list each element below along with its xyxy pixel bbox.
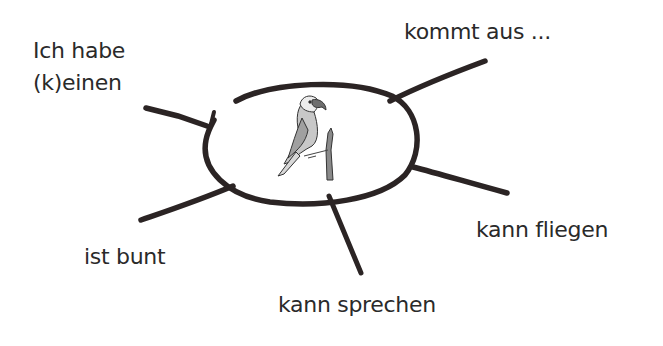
parrot-icon xyxy=(278,96,333,180)
branch-label-bottom: kann sprechen xyxy=(278,290,436,320)
spoke-right xyxy=(413,167,507,193)
branch-label-right: kann fliegen xyxy=(476,215,608,245)
branch-label-top-right: kommt aus ... xyxy=(404,17,551,47)
branch-label-bottom-left: ist bunt xyxy=(84,242,165,272)
branch-label-top-left-line2: (k)einen xyxy=(33,68,122,98)
spoke-bottom xyxy=(329,196,361,273)
spoke-top-left xyxy=(146,108,207,126)
spoke-top-right xyxy=(390,61,485,101)
branch-label-top-left-line1: Ich habe xyxy=(33,36,125,66)
spoke-bottom-left xyxy=(141,186,233,220)
